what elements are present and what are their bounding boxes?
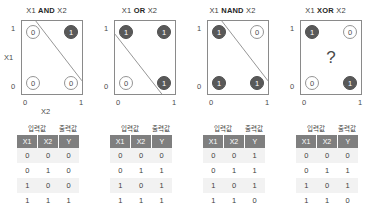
truth-table-caption: 입력값출력값	[296, 123, 358, 133]
data-point-top-right: 0	[250, 25, 264, 39]
title-operand-left: X1	[305, 6, 315, 15]
table-cell: 1	[203, 193, 224, 208]
table-cell: 1	[17, 178, 38, 193]
table-cell: 0	[58, 178, 79, 193]
logic-gates-figure: X1 AND X201001001X1X2입력값출력값X1X2Y00001010…	[0, 0, 372, 219]
xtick-1: 1	[354, 98, 366, 107]
ytick-1: 1	[286, 24, 298, 33]
table-cell: 1	[58, 193, 79, 208]
title-operator: AND	[38, 6, 55, 15]
table-header-row: X1X2Y	[203, 135, 265, 148]
table-cell: 1	[38, 163, 59, 178]
caption-output-label: 출력값	[336, 123, 358, 133]
data-point-top-left: 1	[212, 25, 226, 39]
ytick-1: 1	[7, 24, 19, 33]
table-row: 011	[296, 163, 358, 178]
title-operand-left: X1	[26, 6, 36, 15]
table-row: 001	[203, 148, 265, 163]
plot-title: X1 NAND X2	[186, 6, 279, 15]
table-row: 111	[110, 193, 172, 208]
ytick-0: 0	[286, 82, 298, 91]
table-row: 100	[17, 178, 79, 193]
truth-table: X1X2Y000010100111	[17, 135, 79, 208]
table-row: 010	[17, 163, 79, 178]
column-header-x2: X2	[224, 135, 245, 148]
table-cell: 0	[224, 178, 245, 193]
truth-table-caption: 입력값출력값	[17, 123, 79, 133]
table-cell: 1	[296, 193, 317, 208]
data-point-top-right: 0	[343, 25, 357, 39]
table-cell: 0	[317, 148, 338, 163]
xtick-0: 0	[19, 98, 31, 107]
table-cell: 0	[203, 163, 224, 178]
xtick-0: 0	[112, 98, 124, 107]
table-cell: 0	[38, 178, 59, 193]
caption-output-label: 출력값	[57, 123, 79, 133]
table-cell: 0	[317, 178, 338, 193]
caption-input-label: 입력값	[296, 123, 336, 133]
title-operand-right: X2	[57, 6, 67, 15]
table-cell: 0	[131, 148, 152, 163]
truth-table-wrapper: 입력값출력값X1X2Y001011101110	[203, 123, 265, 208]
column-header-y: Y	[58, 135, 79, 148]
gate-panel-and: X1 AND X201001001X1X2입력값출력값X1X2Y00001010…	[0, 0, 93, 219]
table-cell: 0	[244, 193, 265, 208]
data-point-bottom-right: 1	[343, 76, 357, 90]
ytick-0: 0	[100, 82, 112, 91]
table-row: 011	[110, 163, 172, 178]
table-cell: 0	[337, 148, 358, 163]
table-cell: 1	[203, 178, 224, 193]
table-cell: 0	[296, 148, 317, 163]
column-header-x2: X2	[38, 135, 59, 148]
table-cell: 1	[317, 163, 338, 178]
truth-table: X1X2Y001011101110	[203, 135, 265, 208]
table-cell: 1	[151, 178, 172, 193]
title-operand-left: X1	[209, 6, 219, 15]
gate-panel-or: X1 OR X211011001입력값출력값X1X2Y000011101111	[93, 0, 186, 219]
data-point-bottom-right: 1	[250, 76, 264, 90]
ytick-1: 1	[193, 24, 205, 33]
table-row: 000	[110, 148, 172, 163]
column-header-x2: X2	[317, 135, 338, 148]
caption-input-label: 입력값	[203, 123, 243, 133]
data-point-top-right: 1	[157, 25, 171, 39]
truth-table-wrapper: 입력값출력값X1X2Y000010100111	[17, 123, 79, 208]
truth-table-caption: 입력값출력값	[203, 123, 265, 133]
data-point-bottom-left: 0	[26, 76, 40, 90]
table-cell: 0	[296, 163, 317, 178]
plot-title: X1 OR X2	[93, 6, 186, 15]
data-point-bottom-left: 1	[212, 76, 226, 90]
table-cell: 1	[296, 178, 317, 193]
plot-area: 0100	[21, 20, 83, 95]
column-header-y: Y	[151, 135, 172, 148]
table-cell: 1	[244, 178, 265, 193]
caption-input-label: 입력값	[17, 123, 57, 133]
caption-input-label: 입력값	[110, 123, 150, 133]
table-cell: 1	[131, 193, 152, 208]
table-cell: 0	[38, 148, 59, 163]
table-cell: 1	[224, 193, 245, 208]
truth-table: X1X2Y000011101111	[110, 135, 172, 208]
plot-area: 1101	[114, 20, 176, 95]
table-row: 101	[296, 178, 358, 193]
table-row: 110	[296, 193, 358, 208]
ytick-0: 0	[193, 82, 205, 91]
gate-panel-xor: X1 XOR X2?10011001입력값출력값X1X2Y00001110111…	[279, 0, 372, 219]
xtick-1: 1	[168, 98, 180, 107]
xtick-0: 0	[205, 98, 217, 107]
x-axis-label: X2	[41, 107, 50, 116]
table-cell: 1	[17, 193, 38, 208]
title-operator: XOR	[317, 6, 334, 15]
xtick-0: 0	[298, 98, 310, 107]
table-cell: 0	[58, 148, 79, 163]
column-header-y: Y	[244, 135, 265, 148]
xtick-1: 1	[261, 98, 273, 107]
table-cell: 1	[131, 163, 152, 178]
data-point-top-left: 1	[305, 25, 319, 39]
data-point-bottom-left: 0	[119, 76, 133, 90]
table-row: 110	[203, 193, 265, 208]
table-row: 011	[203, 163, 265, 178]
title-operand-right: X2	[336, 6, 346, 15]
table-cell: 0	[110, 148, 131, 163]
table-cell: 1	[38, 193, 59, 208]
